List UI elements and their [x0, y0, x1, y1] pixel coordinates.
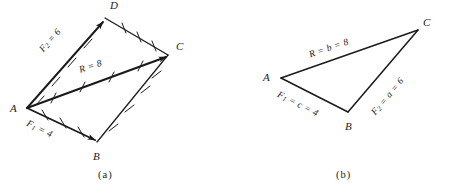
- vertex-label-A: A: [10, 103, 17, 114]
- panel-triangle-method: C A B R = b = 8 F1 = c = 4 F2 = a = 6 (b…: [225, 0, 449, 193]
- parallelogram-drawing: [0, 0, 225, 193]
- vertex-label-A: A: [263, 72, 270, 83]
- vertex-label-B: B: [345, 121, 352, 132]
- edge-D-C: [105, 18, 168, 55]
- vector-addition-figure: D C A B F2 = 6 R = 8 F1 = 4 (a): [0, 0, 449, 193]
- edge-B-C: [97, 55, 168, 142]
- panel-parallelogram-method: D C A B F2 = 6 R = 8 F1 = 4 (a): [0, 0, 225, 193]
- panel-caption-b: (b): [336, 169, 351, 180]
- panel-caption-a: (a): [98, 169, 113, 180]
- vertex-label-D: D: [110, 0, 118, 11]
- vertex-label-C: C: [423, 17, 431, 28]
- vertex-label-B: B: [93, 151, 100, 162]
- vertex-label-C: C: [176, 41, 184, 52]
- triangle-drawing: [225, 0, 449, 193]
